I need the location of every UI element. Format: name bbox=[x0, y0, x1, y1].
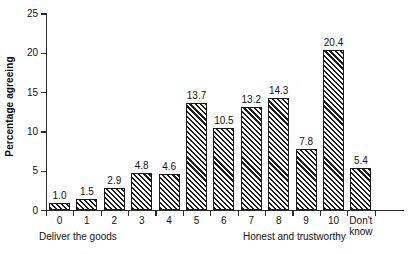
bar-value-label: 1.0 bbox=[53, 190, 67, 201]
bar bbox=[76, 199, 97, 211]
bar bbox=[213, 128, 234, 211]
bar-value-label: 4.6 bbox=[162, 161, 176, 172]
x-axis-tick-label: 9 bbox=[303, 215, 309, 226]
x-axis-tick bbox=[238, 211, 239, 216]
x-axis-tick bbox=[292, 211, 293, 216]
bar-value-label: 20.4 bbox=[324, 37, 343, 48]
left-anchor-label: Deliver the goods bbox=[39, 231, 117, 242]
bar-value-label: 14.3 bbox=[269, 85, 288, 96]
bar-value-label: 2.9 bbox=[107, 175, 121, 186]
bar bbox=[350, 168, 371, 210]
y-axis-tick-label: 20 bbox=[0, 48, 38, 58]
bar bbox=[159, 174, 180, 210]
bar-value-label: 1.5 bbox=[80, 186, 94, 197]
x-axis-tick-label: 1 bbox=[84, 215, 90, 226]
y-axis-line bbox=[46, 13, 47, 211]
bar-value-label: 13.7 bbox=[187, 90, 206, 101]
x-axis-tick bbox=[265, 211, 266, 216]
bar bbox=[296, 149, 317, 210]
right-anchor-label: Honest and trustworthy bbox=[243, 231, 346, 242]
x-axis-tick bbox=[128, 211, 129, 216]
x-axis-tick-label: 8 bbox=[276, 215, 282, 226]
y-axis-tick bbox=[41, 171, 46, 172]
bar bbox=[104, 188, 125, 211]
x-axis-tick-label: Don'tknow bbox=[349, 215, 372, 237]
x-axis-tick-label-line2: know bbox=[349, 226, 372, 237]
x-axis-tick-label: 5 bbox=[194, 215, 200, 226]
y-axis-tick-label: 5 bbox=[0, 166, 38, 176]
x-axis-tick-label: 6 bbox=[221, 215, 227, 226]
bar bbox=[49, 203, 70, 211]
bar-value-label: 13.2 bbox=[242, 94, 261, 105]
x-axis-tick-label: 10 bbox=[328, 215, 339, 226]
x-axis-tick bbox=[320, 211, 321, 216]
bar bbox=[186, 103, 207, 211]
x-axis-tick bbox=[46, 211, 47, 216]
bar-value-label: 5.4 bbox=[354, 155, 368, 166]
y-axis-tick-label: 10 bbox=[0, 127, 38, 137]
x-axis-tick-label: 3 bbox=[139, 215, 145, 226]
bar bbox=[241, 107, 262, 211]
y-axis-tick bbox=[41, 92, 46, 93]
x-axis-tick bbox=[73, 211, 74, 216]
x-axis-tick bbox=[101, 211, 102, 216]
x-axis-tick-label: 2 bbox=[112, 215, 118, 226]
y-axis-tick-label: 25 bbox=[0, 9, 38, 19]
x-axis-tick-label: 4 bbox=[166, 215, 172, 226]
bar bbox=[268, 98, 289, 210]
y-axis-tick bbox=[41, 131, 46, 132]
bar-value-label: 10.5 bbox=[214, 115, 233, 126]
x-axis-tick bbox=[183, 211, 184, 216]
bar bbox=[131, 173, 152, 211]
bar-value-label: 7.8 bbox=[299, 136, 313, 147]
y-axis-tick-label: 15 bbox=[0, 88, 38, 98]
y-axis-tick-label: 0 bbox=[0, 206, 38, 216]
bar bbox=[323, 50, 344, 210]
y-axis-tick bbox=[41, 13, 46, 14]
y-axis-tick bbox=[41, 53, 46, 54]
x-axis-tick-label: 7 bbox=[249, 215, 255, 226]
x-axis-tick bbox=[155, 211, 156, 216]
y-axis-title: Percentage agreeing bbox=[0, 0, 18, 212]
bar-value-label: 4.8 bbox=[135, 160, 149, 171]
x-axis-tick bbox=[210, 211, 211, 216]
bar-chart: Percentage agreeing 0510152025 012345678… bbox=[0, 0, 410, 254]
x-axis-tick-label: 0 bbox=[57, 215, 63, 226]
y-axis-title-text: Percentage agreeing bbox=[4, 56, 15, 156]
x-axis-tick bbox=[375, 211, 376, 216]
